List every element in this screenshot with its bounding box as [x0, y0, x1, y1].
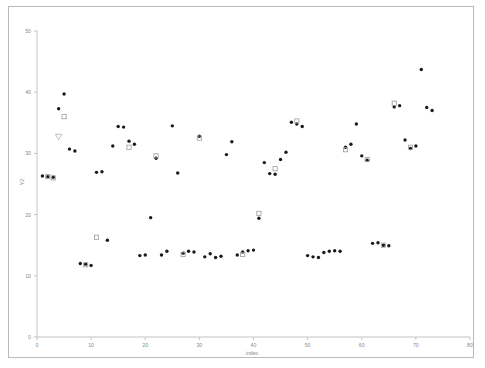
- data-point-circle: [360, 154, 363, 157]
- data-point-circle: [317, 256, 320, 259]
- data-point-circle: [306, 254, 309, 257]
- data-point-circle: [144, 253, 147, 256]
- x-tick-label: 10: [88, 342, 94, 348]
- data-point-circle: [273, 173, 276, 176]
- data-point-circle: [230, 140, 233, 143]
- data-point-circle: [62, 92, 65, 95]
- data-point-circle: [209, 252, 212, 255]
- data-point-circle: [414, 144, 417, 147]
- data-point-circle: [171, 124, 174, 127]
- data-point-circle: [403, 138, 406, 141]
- data-point-circle: [349, 143, 352, 146]
- data-point-circle: [106, 239, 109, 242]
- y-tick-label: 50: [25, 28, 31, 34]
- data-point-circle: [89, 264, 92, 267]
- series-open-square: [46, 101, 413, 267]
- data-point-circle: [133, 143, 136, 146]
- data-point-circle: [371, 242, 374, 245]
- data-point-circle: [203, 255, 206, 258]
- data-point-circle: [333, 249, 336, 252]
- data-point-circle: [46, 175, 49, 178]
- data-point-circle: [73, 149, 76, 152]
- x-tick-label: 60: [359, 342, 365, 348]
- x-tick-label: 20: [142, 342, 148, 348]
- x-tick-label: 50: [305, 342, 311, 348]
- data-point-circle: [387, 244, 390, 247]
- data-point-circle: [257, 217, 260, 220]
- data-point-circle: [127, 139, 130, 142]
- data-point-circle: [284, 150, 287, 153]
- data-point-circle: [376, 241, 379, 244]
- data-point-circle: [236, 253, 239, 256]
- data-point-circle: [328, 250, 331, 253]
- data-point-circle: [252, 248, 255, 251]
- x-axis-title: index: [246, 350, 259, 356]
- x-tick-label: 30: [196, 342, 202, 348]
- series-filled-circle: [41, 68, 434, 267]
- data-point-circle: [111, 144, 114, 147]
- scatter-plot: 0102030405060708001020304050 index Y2: [0, 0, 485, 368]
- data-point-square: [273, 167, 277, 171]
- data-point-circle: [192, 250, 195, 253]
- data-point-square: [94, 235, 98, 239]
- axis-ticks: [34, 31, 470, 340]
- data-point-circle: [160, 253, 163, 256]
- data-points: [41, 68, 434, 267]
- data-point-circle: [225, 153, 228, 156]
- data-point-circle: [398, 104, 401, 107]
- data-point-circle: [268, 172, 271, 175]
- data-point-circle: [122, 125, 125, 128]
- data-point-circle: [95, 171, 98, 174]
- data-point-circle: [338, 250, 341, 253]
- data-point-square: [257, 211, 261, 215]
- y-axis-title: Y2: [19, 179, 25, 185]
- data-point-square: [62, 115, 66, 119]
- data-point-circle: [41, 174, 44, 177]
- data-point-circle: [68, 147, 71, 150]
- data-point-circle: [311, 255, 314, 258]
- x-tick-label: 0: [36, 342, 39, 348]
- data-point-circle: [116, 125, 119, 128]
- data-point-circle: [263, 161, 266, 164]
- data-point-circle: [57, 107, 60, 110]
- y-tick-label: 20: [25, 212, 31, 218]
- y-tick-label: 10: [25, 273, 31, 279]
- data-point-circle: [100, 170, 103, 173]
- x-tick-label: 70: [413, 342, 419, 348]
- data-point-square: [127, 145, 131, 149]
- data-point-circle: [79, 262, 82, 265]
- data-point-circle: [176, 171, 179, 174]
- data-point-circle: [322, 251, 325, 254]
- x-tick-label: 40: [251, 342, 257, 348]
- data-point-square: [392, 101, 396, 105]
- data-point-circle: [301, 125, 304, 128]
- data-point-circle: [430, 109, 433, 112]
- data-point-circle: [187, 250, 190, 253]
- data-point-circle: [165, 250, 168, 253]
- data-point-circle: [290, 120, 293, 123]
- x-tick-label: 80: [467, 342, 473, 348]
- data-point-circle: [355, 122, 358, 125]
- data-point-circle: [425, 106, 428, 109]
- data-point-circle: [219, 255, 222, 258]
- data-point-triangle: [55, 134, 61, 139]
- y-tick-label: 0: [28, 334, 31, 340]
- axes: [37, 31, 470, 337]
- series-open-triangle: [55, 134, 61, 139]
- data-point-circle: [246, 249, 249, 252]
- axis-tick-labels: 0102030405060708001020304050: [25, 28, 473, 348]
- data-point-circle: [149, 216, 152, 219]
- data-point-circle: [382, 244, 385, 247]
- data-point-circle: [420, 68, 423, 71]
- data-point-circle: [214, 256, 217, 259]
- data-point-circle: [138, 254, 141, 257]
- data-point-circle: [279, 158, 282, 161]
- y-tick-label: 40: [25, 89, 31, 95]
- y-tick-label: 30: [25, 150, 31, 156]
